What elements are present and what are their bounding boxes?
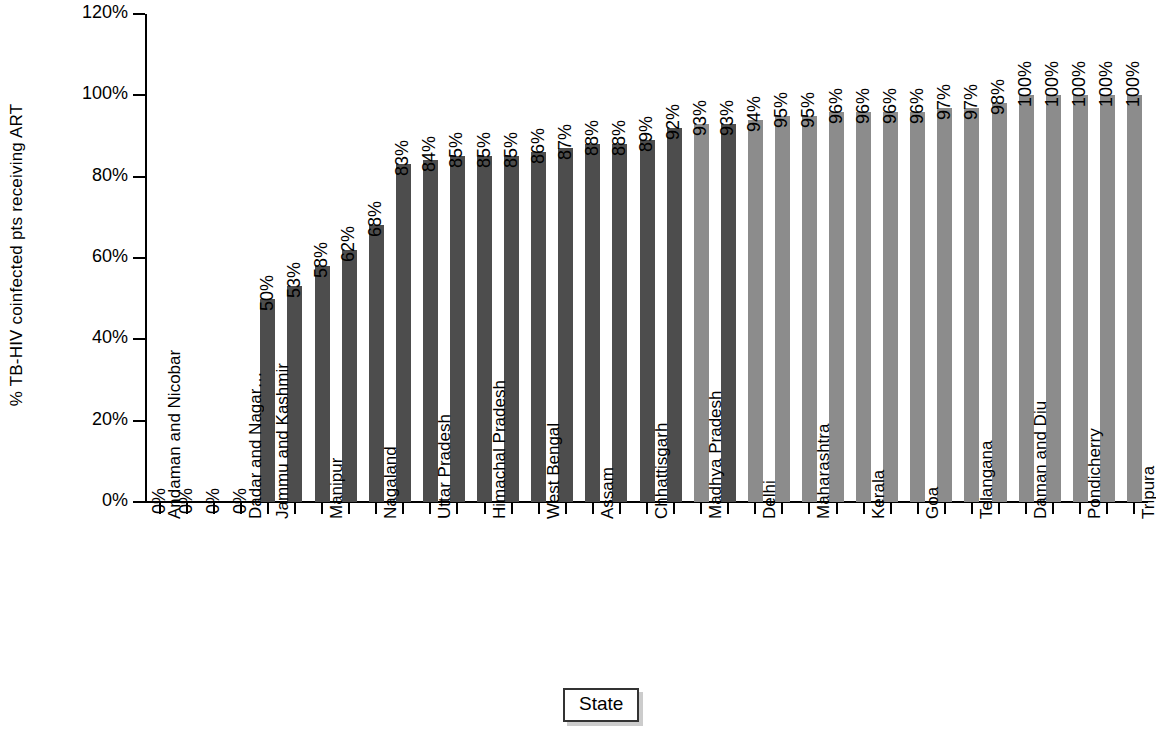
- x-tick-mark: [673, 503, 675, 514]
- bar[interactable]: [612, 144, 627, 502]
- x-category-label: Chhattisgarh: [653, 423, 670, 519]
- bar-value-label: 86%: [529, 128, 547, 164]
- x-tick-mark: [456, 503, 458, 514]
- x-tick-mark: [700, 503, 702, 514]
- bar[interactable]: [856, 112, 871, 502]
- bar-value-label: 100%: [1070, 61, 1088, 107]
- y-tick-mark: [133, 338, 145, 340]
- x-tick-mark: [294, 503, 296, 514]
- x-tick-mark: [808, 503, 810, 514]
- x-tick-mark: [754, 503, 756, 514]
- x-tick-mark: [1052, 503, 1054, 514]
- bar-value-label: 88%: [583, 120, 601, 156]
- x-category-label: Himachal Pradesh: [491, 380, 508, 519]
- bar-value-label: 87%: [556, 124, 574, 160]
- chart-page: % TB-HIV coinfected pts receiving ART 0%…: [0, 0, 1156, 752]
- bar-value-label: 93%: [691, 100, 709, 136]
- bar[interactable]: [1127, 95, 1142, 502]
- bar-value-label: 83%: [393, 140, 411, 176]
- x-tick-mark: [890, 503, 892, 514]
- x-category-label: Andaman and Nicobar: [166, 350, 183, 519]
- bar-value-label: 96%: [827, 88, 845, 124]
- x-tick-mark: [186, 503, 188, 514]
- bar-value-label: 96%: [908, 88, 926, 124]
- y-tick-label: 100%: [62, 84, 128, 102]
- bar-value-label: 96%: [854, 88, 872, 124]
- x-category-label: Madhya Pradesh: [707, 390, 724, 519]
- bar-value-label: 94%: [745, 96, 763, 132]
- bar-value-label: 89%: [637, 116, 655, 152]
- bar[interactable]: [585, 144, 600, 502]
- bar-value-label: 50%: [258, 275, 276, 311]
- x-tick-mark: [998, 503, 1000, 514]
- x-category-label: Jammu and Kashmir: [274, 363, 291, 519]
- x-tick-mark: [917, 503, 919, 514]
- x-category-label: Goa: [924, 487, 941, 519]
- x-tick-mark: [429, 503, 431, 514]
- bar-value-label: 93%: [718, 100, 736, 136]
- x-tick-mark: [240, 503, 242, 514]
- bar-value-label: 98%: [989, 79, 1007, 115]
- x-tick-mark: [402, 503, 404, 514]
- bar-value-label: 92%: [664, 104, 682, 140]
- bar-value-label: 85%: [475, 132, 493, 168]
- y-tick-mark: [133, 13, 145, 15]
- y-tick-label: 20%: [62, 410, 128, 428]
- bar[interactable]: [883, 112, 898, 502]
- x-tick-mark: [1079, 503, 1081, 514]
- x-category-label: Assam: [599, 467, 616, 519]
- x-tick-mark: [1106, 503, 1108, 514]
- y-tick-mark: [133, 420, 145, 422]
- x-tick-mark: [781, 503, 783, 514]
- bar-value-label: 100%: [1097, 61, 1115, 107]
- x-tick-mark: [213, 503, 215, 514]
- x-category-label: Delhi: [761, 480, 778, 519]
- x-tick-mark: [1025, 503, 1027, 514]
- bar[interactable]: [937, 108, 952, 502]
- bar-value-label: 62%: [339, 226, 357, 262]
- bar-value-label: 85%: [502, 132, 520, 168]
- x-tick-mark: [267, 503, 269, 514]
- x-tick-mark: [727, 503, 729, 514]
- x-category-label: Uttar Pradesh: [436, 414, 453, 519]
- x-category-label: Tripura: [1140, 466, 1156, 519]
- bar-value-label: 97%: [962, 84, 980, 120]
- x-tick-mark: [646, 503, 648, 514]
- bar-value-label: 100%: [1043, 61, 1061, 107]
- bar[interactable]: [748, 120, 763, 502]
- bar[interactable]: [775, 116, 790, 502]
- bar-value-label: 100%: [1016, 61, 1034, 107]
- plot-area: 0%0%0%0%50%53%58%62%68%83%84%85%85%85%86…: [146, 14, 1148, 502]
- x-tick-mark: [159, 503, 161, 514]
- bar[interactable]: [910, 112, 925, 502]
- x-category-label: West Bengal: [545, 423, 562, 519]
- bar-value-label: 95%: [799, 92, 817, 128]
- x-axis-title: State: [563, 688, 639, 722]
- x-tick-mark: [944, 503, 946, 514]
- bar-value-label: 97%: [935, 84, 953, 120]
- y-tick-label: 60%: [62, 247, 128, 265]
- y-tick-mark: [133, 257, 145, 259]
- x-category-label: Kerala: [870, 470, 887, 519]
- bar-value-label: 100%: [1124, 61, 1142, 107]
- x-axis-title-text: State: [579, 693, 623, 714]
- x-tick-mark: [348, 503, 350, 514]
- x-category-label: Daman and Diu: [1032, 401, 1049, 519]
- x-tick-mark: [375, 503, 377, 514]
- x-category-label: Pondicherry: [1086, 428, 1103, 519]
- y-tick-mark: [133, 501, 145, 503]
- bar-value-label: 95%: [772, 92, 790, 128]
- y-tick-label: 40%: [62, 328, 128, 346]
- y-axis-ticks: 0%20%40%60%80%100%120%: [0, 0, 146, 752]
- y-tick-label: 80%: [62, 166, 128, 184]
- bar-value-label: 85%: [447, 132, 465, 168]
- y-tick-label: 120%: [62, 3, 128, 21]
- y-tick-mark: [133, 94, 145, 96]
- x-tick-mark: [565, 503, 567, 514]
- x-tick-mark: [538, 503, 540, 514]
- bar-value-label: 53%: [285, 262, 303, 298]
- y-tick-label: 0%: [62, 491, 128, 509]
- x-tick-mark: [321, 503, 323, 514]
- x-tick-mark: [592, 503, 594, 514]
- x-category-label: Manipur: [328, 458, 345, 519]
